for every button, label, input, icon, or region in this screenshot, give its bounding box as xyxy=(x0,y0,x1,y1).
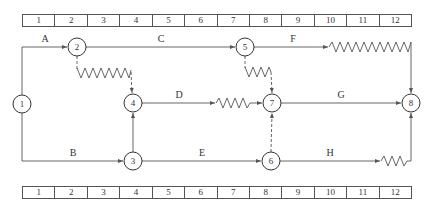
activity-a-arrow xyxy=(22,47,67,95)
activity-label-g: G xyxy=(337,89,344,100)
node-1-label: 1 xyxy=(20,99,25,109)
time-unit: 2 xyxy=(55,187,87,198)
activity-label-d: D xyxy=(175,89,182,100)
time-unit: 11 xyxy=(347,187,379,198)
dummy-5-7-float-zigzag xyxy=(245,67,271,77)
node-7-label: 7 xyxy=(270,98,275,108)
activity-f-float-zigzag xyxy=(329,42,411,93)
node-3-label: 3 xyxy=(131,156,136,166)
activity-label-f: F xyxy=(290,33,296,44)
time-unit: 4 xyxy=(120,187,152,198)
activity-label-a: A xyxy=(41,33,49,44)
time-unit: 9 xyxy=(282,187,314,198)
node-6-label: 6 xyxy=(269,156,274,166)
dummy-5-7-dashed-down xyxy=(271,72,272,93)
node-8-label: 8 xyxy=(409,98,414,108)
activity-label-h: H xyxy=(326,147,333,158)
time-unit: 7 xyxy=(218,187,250,198)
activity-label-c: C xyxy=(158,33,165,44)
node-4-label: 4 xyxy=(131,98,136,108)
activity-label-e: E xyxy=(199,147,205,158)
time-unit: 1 xyxy=(23,187,55,198)
dummy-2-4-dashed-down xyxy=(131,72,132,93)
time-unit: 6 xyxy=(185,187,217,198)
activity-label-b: B xyxy=(70,147,77,158)
network-diagram: A B C D E F G H 1 2 3 4 5 6 7 8 xyxy=(0,0,433,212)
time-unit: 12 xyxy=(380,187,411,198)
timeline-bottom: 1 2 3 4 5 6 7 8 9 10 11 12 xyxy=(22,186,412,199)
time-unit: 3 xyxy=(88,187,120,198)
activity-d-float-zigzag xyxy=(216,98,262,108)
time-unit: 8 xyxy=(250,187,282,198)
activity-h-float-zigzag xyxy=(381,113,411,166)
dummy-2-4-float-zigzag xyxy=(77,68,131,78)
node-5-label: 5 xyxy=(243,42,248,52)
time-unit: 10 xyxy=(315,187,347,198)
dummy-6-7-dashed xyxy=(271,113,272,152)
time-unit: 5 xyxy=(153,187,185,198)
node-2-label: 2 xyxy=(75,42,80,52)
